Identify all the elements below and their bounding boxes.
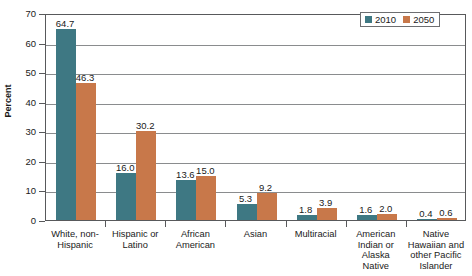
y-axis-tick-label: 70 bbox=[0, 9, 36, 18]
gridline bbox=[46, 104, 465, 105]
x-axis-tick bbox=[105, 221, 106, 227]
bar-2010-4 bbox=[297, 215, 317, 220]
bar-chart: Percent 010203040506070 White, non-Hispa… bbox=[0, 0, 472, 276]
value-label: 46.3 bbox=[68, 72, 102, 83]
y-axis-tick bbox=[39, 221, 45, 222]
bar-2050-1 bbox=[136, 131, 156, 220]
bar-2050-2 bbox=[196, 176, 216, 220]
gridline bbox=[46, 133, 465, 134]
legend-item-2010: 2010 bbox=[365, 15, 396, 24]
value-label: 30.2 bbox=[128, 120, 162, 131]
y-axis-tick-label: 40 bbox=[0, 98, 36, 107]
x-axis-label-line: Islander bbox=[401, 261, 471, 272]
y-axis-tick-label: 10 bbox=[0, 186, 36, 195]
x-axis-tick bbox=[165, 221, 166, 227]
x-axis-tick bbox=[406, 221, 407, 227]
bar-2010-6 bbox=[417, 219, 437, 220]
x-axis-tick bbox=[225, 221, 226, 227]
value-label: 16.0 bbox=[108, 162, 142, 173]
y-axis-tick-label: 20 bbox=[0, 157, 36, 166]
x-axis-label-line: other Pacific bbox=[401, 250, 471, 261]
value-label: 64.7 bbox=[48, 18, 82, 29]
bar-2010-2 bbox=[176, 180, 196, 220]
bar-2010-3 bbox=[237, 204, 257, 220]
x-axis-tick bbox=[346, 221, 347, 227]
bar-2010-0 bbox=[56, 29, 76, 220]
y-axis-tick-label: 30 bbox=[0, 127, 36, 136]
gridline bbox=[46, 74, 465, 75]
legend-item-2050: 2050 bbox=[403, 15, 434, 24]
chart-legend: 2010 2050 bbox=[360, 12, 440, 27]
y-axis-tick-label: 60 bbox=[0, 39, 36, 48]
value-label: 0.6 bbox=[429, 207, 463, 218]
x-axis-label-line: Native bbox=[401, 229, 471, 240]
value-label: 15.0 bbox=[188, 165, 222, 176]
legend-swatch-2050-icon bbox=[403, 16, 410, 23]
legend-label-2050: 2050 bbox=[413, 15, 434, 24]
x-axis-label-6: NativeHawaiian andother PacificIslander bbox=[401, 229, 471, 271]
y-axis-tick-label: 0 bbox=[0, 216, 36, 225]
value-label: 5.3 bbox=[229, 193, 263, 204]
gridline bbox=[46, 45, 465, 46]
y-axis-tick-label: 50 bbox=[0, 68, 36, 77]
bar-2010-5 bbox=[357, 215, 377, 220]
bar-2050-0 bbox=[76, 83, 96, 220]
value-label: 9.2 bbox=[249, 182, 283, 193]
value-label: 2.0 bbox=[369, 203, 403, 214]
value-label: 3.9 bbox=[309, 197, 343, 208]
legend-label-2010: 2010 bbox=[375, 15, 396, 24]
x-axis-label-line: American bbox=[160, 240, 230, 251]
legend-swatch-2010-icon bbox=[365, 16, 372, 23]
x-axis-tick bbox=[286, 221, 287, 227]
bar-2010-1 bbox=[116, 173, 136, 220]
x-axis-label-line: Hawaiian and bbox=[401, 240, 471, 251]
